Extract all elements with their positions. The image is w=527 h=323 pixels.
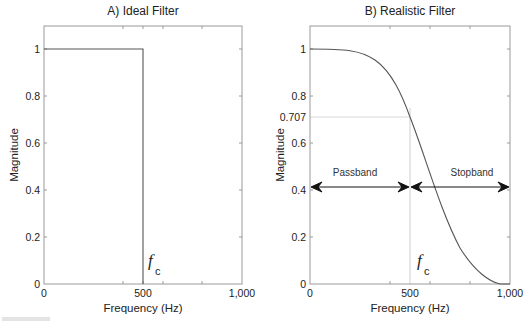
x-tick-label: 500 <box>401 287 419 299</box>
y-tick-label: 0 <box>300 278 306 290</box>
cropped-caption-fragment <box>2 317 50 321</box>
y-tick-label-0707: 0.707 <box>280 111 306 123</box>
x-axis-label: Frequency (Hz) <box>103 302 182 314</box>
figure: A) Ideal Filter 0 0.2 0.4 0.6 0.8 1 <box>0 0 527 323</box>
y-tick-label: 0 <box>34 278 40 290</box>
y-tick-label: 1 <box>300 43 306 55</box>
chart-title: B) Realistic Filter <box>365 4 456 18</box>
x-tick-labels: 0 500 1,000 <box>41 287 255 299</box>
chart-title: A) Ideal Filter <box>107 4 178 18</box>
x-tick-label: 500 <box>134 287 152 299</box>
stopband-label: Stopband <box>451 167 494 178</box>
x-tick-label: 0 <box>41 287 47 299</box>
y-tick-labels: 0 0.2 0.4 0.6 0.8 1 <box>25 43 40 290</box>
y-tick-label: 0.4 <box>25 184 40 196</box>
passband-label: Passband <box>333 167 377 178</box>
fc-label: f <box>417 251 424 270</box>
y-tick-label: 0.6 <box>25 137 40 149</box>
y-axis-label: Magnitude <box>274 128 286 182</box>
y-tick-label: 1 <box>34 43 40 55</box>
x-tick-label: 0 <box>307 287 313 299</box>
fc-label: f <box>148 251 155 270</box>
ideal-response-line <box>44 49 143 284</box>
x-tick-label: 1,000 <box>497 287 523 299</box>
y-tick-label: 0.8 <box>291 90 306 102</box>
y-tick-label: 0.6 <box>291 137 306 149</box>
y-tick-label: 0.2 <box>291 231 306 243</box>
y-axis-label: Magnitude <box>8 128 20 182</box>
y-tick-label: 0.8 <box>25 90 40 102</box>
chart-ideal-filter: A) Ideal Filter 0 0.2 0.4 0.6 0.8 1 <box>8 4 255 314</box>
y-tick-label: 0.2 <box>25 231 40 243</box>
fc-subscript: c <box>424 265 430 277</box>
x-axis-label: Frequency (Hz) <box>370 302 449 314</box>
x-tick-label: 1,000 <box>229 287 255 299</box>
y-tick-label: 0.4 <box>291 184 306 196</box>
x-tick-labels: 0 500 1,000 <box>307 287 523 299</box>
fc-subscript: c <box>155 265 161 277</box>
chart-realistic-filter: B) Realistic Filter 0 0.2 0.4 0.6 0.707 … <box>274 4 523 314</box>
x-ticks <box>123 26 202 284</box>
